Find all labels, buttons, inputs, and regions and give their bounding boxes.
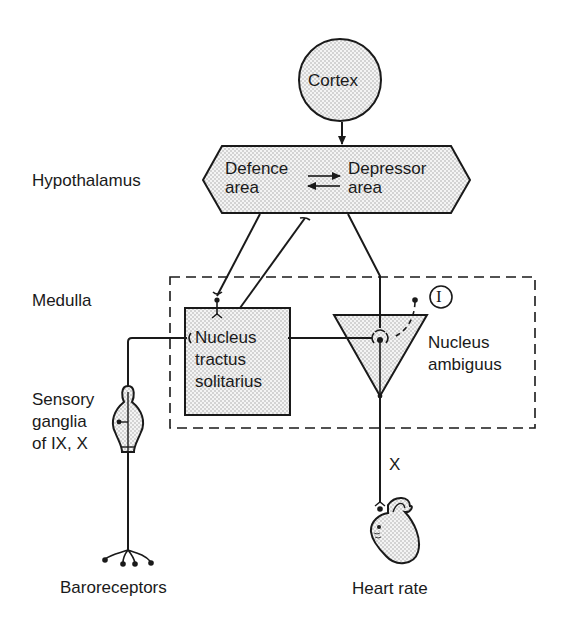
nts-line3: solitarius (195, 371, 262, 393)
inhibitory-neuron-dot (412, 297, 418, 303)
medulla-region-label: Medulla (32, 291, 92, 310)
sensory-ganglia-label: Sensory ganglia of IX, X (32, 389, 94, 455)
nts-line2: tractus (195, 349, 262, 371)
baroreceptor-endings-icon (102, 550, 154, 567)
depressor-to-na-fiber (348, 214, 380, 328)
sensory-ganglia-line3: of IX, X (32, 433, 94, 455)
vagus-nerve-label: X (389, 455, 400, 474)
afferent-fiber-top (128, 338, 187, 392)
baroreceptors-label: Baroreceptors (60, 578, 167, 597)
heart-junction-dot (377, 506, 383, 512)
diagram-canvas (0, 0, 565, 623)
nts-line1: Nucleus (195, 327, 262, 349)
nucleus-ambiguus-line2: ambiguus (428, 354, 502, 376)
nucleus-ambiguus-line1: Nucleus (428, 332, 502, 354)
hypothalamus-region-label: Hypothalamus (32, 171, 141, 190)
sensory-ganglia-line1: Sensory (32, 389, 94, 411)
sensory-ganglion-icon (113, 386, 143, 455)
defence-area-line1: Defence (225, 159, 288, 178)
defence-to-nts-fiber (217, 214, 260, 296)
sensory-ganglia-line2: ganglia (32, 411, 94, 433)
defence-area-line2: area (225, 178, 288, 197)
depressor-area-line1: Depressor (348, 159, 426, 178)
defence-area-label: Defence area (225, 159, 288, 197)
vagus-terminal (375, 502, 385, 506)
cortex-label: Cortex (308, 71, 358, 90)
depressor-area-label: Depressor area (348, 159, 426, 197)
inhibitory-marker-label: I (436, 287, 442, 306)
nucleus-ambiguus-label: Nucleus ambiguus (428, 332, 502, 376)
depressor-area-line2: area (348, 178, 426, 197)
nts-label: Nucleus tractus solitarius (195, 327, 262, 393)
heart-rate-label: Heart rate (352, 579, 428, 598)
